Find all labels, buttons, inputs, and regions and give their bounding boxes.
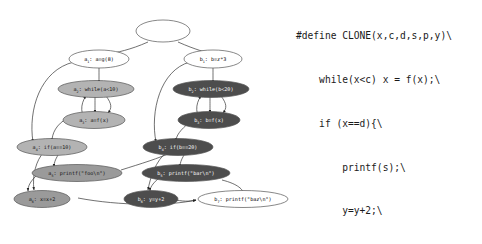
node-b2-code: while(b<20) <box>200 86 234 92</box>
node-b2[interactable]: b2: while(b<20) <box>173 81 249 98</box>
node-entry[interactable] <box>136 20 190 42</box>
node-b3-code: b=f(x) <box>205 117 223 123</box>
node-a5[interactable]: a5: printf("foo\n") <box>32 165 122 182</box>
edge-a1-a4-outer <box>32 62 74 142</box>
graph-svg: a1: a=g(8) a2: while(a<10) a3: a=f(x) <box>0 0 292 244</box>
node-b7-code: printf("baz\n") <box>226 196 272 203</box>
node-b4[interactable]: b4: if(b==20) <box>143 139 213 156</box>
graph-nodes: a1: a=g(8) a2: while(a<10) a3: a=f(x) <box>14 20 288 208</box>
node-a1[interactable]: a1: a=g(8) <box>69 50 129 68</box>
control-flow-graph-panel: a1: a=g(8) a2: while(a<10) a3: a=f(x) <box>0 0 292 244</box>
node-a6[interactable]: a6: x=x+2 <box>14 191 70 208</box>
code-line-1: while(x<c) x = f(x);\ <box>296 73 482 88</box>
node-b1-code: b=z*3 <box>211 56 226 62</box>
edge-b1-b4-outer <box>154 62 190 142</box>
node-a5-code: printf("foo\n") <box>60 170 106 177</box>
code-line-4: y=y+2;\ <box>296 204 482 219</box>
node-b3[interactable]: b3: b=f(x) <box>178 112 240 129</box>
node-a3-code: a=f(x) <box>90 117 108 123</box>
source-code-panel: #define CLONE(x,c,d,s,p,y)\ while(x<c) x… <box>296 0 482 244</box>
node-b7[interactable]: b7: printf("baz\n") <box>198 191 288 208</box>
node-b5-code: printf("bar\n") <box>169 170 215 177</box>
edge-b5-b6 <box>150 178 159 191</box>
node-a4-code: if(a==10) <box>44 144 72 150</box>
code-line-2: if (x==d){\ <box>296 117 482 132</box>
node-b1[interactable]: b1: b=z*3 <box>184 50 242 68</box>
node-b6-code: y=y+2 <box>149 196 164 203</box>
node-b6[interactable]: b6: y=y+2 <box>124 191 178 208</box>
node-a2[interactable]: a2: while(a<10) <box>58 81 134 98</box>
edge-a5-a6 <box>28 176 36 191</box>
node-b4-code: if(b==20) <box>170 144 198 150</box>
node-a4[interactable]: a4: if(a==10) <box>17 139 87 156</box>
figure-root: a1: a=g(8) a2: while(a<10) a3: a=f(x) <box>0 0 482 244</box>
node-a1-code: a=g(8) <box>95 56 113 63</box>
edge-a2-a3b <box>106 96 111 113</box>
code-line-0: #define CLONE(x,c,d,s,p,y)\ <box>296 29 482 44</box>
code-line-3: printf(s);\ <box>296 161 482 176</box>
node-a3[interactable]: a3: a=f(x) <box>63 112 125 129</box>
node-a6-code: x=x+2 <box>40 196 55 202</box>
node-a2-code: while(a<10) <box>85 86 119 92</box>
edge-b2-b3b <box>221 96 226 113</box>
node-b5[interactable]: b5: printf("bar\n") <box>142 165 230 182</box>
